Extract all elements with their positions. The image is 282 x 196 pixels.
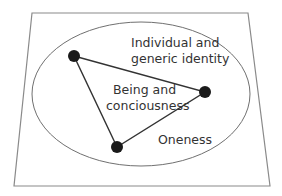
node-right	[199, 86, 211, 98]
node-top-left	[68, 50, 80, 62]
diagram-canvas: Individual and generic identity Being an…	[0, 0, 282, 196]
label-being-line1: Being and	[113, 82, 176, 97]
node-bottom	[111, 141, 123, 153]
label-being-line2: conciousness	[106, 98, 190, 113]
label-oneness: Oneness	[158, 132, 212, 147]
label-identity-line1: Individual and	[131, 35, 219, 50]
label-identity-line2: generic identity	[131, 51, 230, 66]
